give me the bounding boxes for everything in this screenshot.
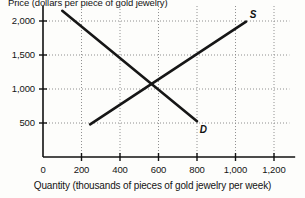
x-axis-caption: Quantity (thousands of pieces of gold je… <box>0 180 305 191</box>
x-tick-label-1000: 1,000 <box>216 164 256 175</box>
x-tick-label-200: 200 <box>62 164 102 175</box>
curve-lines <box>62 11 246 125</box>
y-tick-label-1000: 1,000 <box>0 83 35 94</box>
y-tick-label-1500: 1,500 <box>0 49 35 60</box>
gridlines <box>43 6 289 157</box>
axis-lines <box>43 6 295 157</box>
curve-label-d: D <box>200 124 207 135</box>
x-tick-label-400: 400 <box>100 164 140 175</box>
supply-demand-chart: Price (dollars per piece of gold jewelry… <box>0 0 305 198</box>
x-tick-label-600: 600 <box>139 164 179 175</box>
curve-label-s: S <box>250 9 257 20</box>
x-tick-label-1200: 1,200 <box>254 164 294 175</box>
x-tick-label-800: 800 <box>177 164 217 175</box>
tick-marks <box>39 21 274 161</box>
y-tick-label-500: 500 <box>0 117 35 128</box>
x-tick-label-0: 0 <box>23 164 63 175</box>
y-tick-label-2000: 2,000 <box>0 15 35 26</box>
